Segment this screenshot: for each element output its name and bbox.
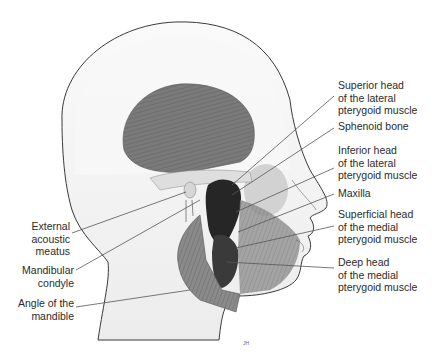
label-external-acoustic-meatus: External acoustic meatus: [0, 220, 70, 258]
label-angle-of-mandible: Angle of the mandible: [0, 297, 74, 322]
label-sphenoid-bone: Sphenoid bone: [338, 120, 409, 133]
label-deep-head-medial-pterygoid: Deep head of the medial pterygoid muscle: [338, 256, 417, 294]
label-superficial-head-medial-pterygoid: Superficial head of the medial pterygoid…: [338, 208, 417, 246]
label-maxilla: Maxilla: [338, 187, 371, 200]
artist-signature: JH: [243, 340, 249, 346]
label-inferior-head-lateral-pterygoid: Inferior head of the lateral pterygoid m…: [338, 144, 417, 182]
anatomy-figure: Superior head of the lateral pterygoid m…: [0, 0, 438, 363]
label-superior-head-lateral-pterygoid: Superior head of the lateral pterygoid m…: [338, 79, 417, 117]
ear-canal-shape: [184, 182, 196, 198]
label-mandibular-condyle: Mandibular condyle: [0, 264, 74, 289]
